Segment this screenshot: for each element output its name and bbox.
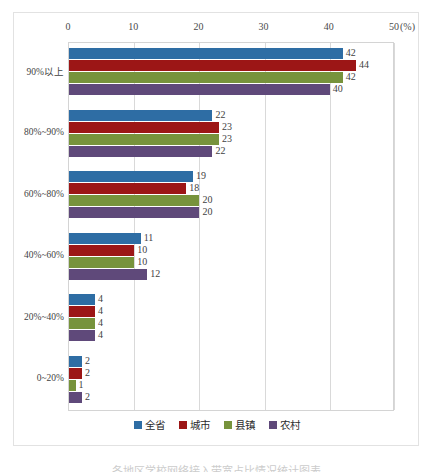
bar-全省-90%以上[interactable]: [69, 48, 343, 59]
bar-value-label: 2: [82, 367, 90, 378]
legend-item-农村[interactable]: 农村: [269, 417, 300, 432]
x-axis-tick-0: 0: [66, 21, 71, 32]
y-axis-label-2: 60%~80%: [14, 189, 64, 199]
bar-group-4: 4444: [69, 294, 393, 342]
bar-value-label: 4: [95, 293, 103, 304]
x-axis-tick-20: 20: [193, 21, 203, 32]
bar-城市-60%~80%[interactable]: [69, 183, 186, 194]
bar-group-0: 42444240: [69, 48, 393, 96]
bar-城市-20%~40%[interactable]: [69, 306, 95, 317]
x-axis-tick-50: 50: [389, 21, 399, 32]
bar-value-label: 22: [212, 109, 225, 120]
plot-area: 4244424022232322191820201110101244442212: [68, 42, 394, 411]
gridline-50: [394, 43, 395, 410]
bar-row: 44: [69, 60, 393, 71]
bar-value-label: 40: [330, 83, 343, 94]
bar-农村-80%~90%[interactable]: [69, 146, 212, 157]
bar-县镇-90%以上[interactable]: [69, 72, 343, 83]
bar-value-label: 18: [186, 182, 199, 193]
bar-value-label: 4: [95, 305, 103, 316]
bar-农村-0~20%[interactable]: [69, 392, 82, 403]
bar-县镇-20%~40%[interactable]: [69, 318, 95, 329]
y-axis-label-0: 90%以上: [14, 64, 64, 78]
bar-城市-90%以上[interactable]: [69, 60, 356, 71]
bar-row: 12: [69, 269, 393, 280]
bar-县镇-60%~80%[interactable]: [69, 195, 199, 206]
bar-value-label: 12: [147, 268, 160, 279]
bar-value-label: 4: [95, 329, 103, 340]
figure-caption: 各地区学校网络接入带宽占比情况统计图表: [0, 462, 432, 472]
bar-全省-40%~60%[interactable]: [69, 233, 141, 244]
bar-value-label: 20: [199, 206, 212, 217]
x-axis-tick-30: 30: [259, 21, 269, 32]
bar-value-label: 11: [141, 232, 154, 243]
bar-row: 2: [69, 368, 393, 379]
legend-item-全省[interactable]: 全省: [134, 417, 165, 432]
chart-legend: 全省城市县镇农村: [14, 417, 420, 432]
y-axis-label-3: 40%~60%: [14, 250, 64, 260]
bar-value-label: 10: [134, 244, 147, 255]
bar-县镇-40%~60%[interactable]: [69, 257, 134, 268]
x-axis-tick-10: 10: [128, 21, 138, 32]
legend-item-城市[interactable]: 城市: [179, 417, 210, 432]
bar-row: 20: [69, 207, 393, 218]
x-axis-tick-40: 40: [324, 21, 334, 32]
bar-农村-60%~80%[interactable]: [69, 207, 199, 218]
bar-value-label: 23: [219, 133, 232, 144]
bar-row: 10: [69, 245, 393, 256]
bar-row: 1: [69, 380, 393, 391]
bar-row: 2: [69, 392, 393, 403]
legend-label: 农村: [280, 417, 300, 432]
x-axis-tick-labels: 01020304050(%): [14, 13, 420, 41]
bar-value-label: 42: [343, 47, 356, 58]
legend-swatch-icon: [269, 421, 277, 429]
bar-value-label: 10: [134, 256, 147, 267]
y-axis-label-5: 0~20%: [14, 373, 64, 383]
bar-row: 42: [69, 72, 393, 83]
y-axis-label-4: 20%~40%: [14, 312, 64, 322]
x-axis-unit-label: (%): [400, 21, 415, 32]
bar-row: 10: [69, 257, 393, 268]
bar-row: 42: [69, 48, 393, 59]
legend-swatch-icon: [224, 421, 232, 429]
bar-全省-80%~90%[interactable]: [69, 110, 212, 121]
bar-row: 4: [69, 318, 393, 329]
bar-row: 4: [69, 330, 393, 341]
bar-row: 2: [69, 356, 393, 367]
bar-农村-40%~60%[interactable]: [69, 269, 147, 280]
bar-value-label: 2: [82, 391, 90, 402]
legend-item-县镇[interactable]: 县镇: [224, 417, 255, 432]
legend-label: 县镇: [235, 417, 255, 432]
bar-全省-60%~80%[interactable]: [69, 171, 193, 182]
bar-value-label: 23: [219, 121, 232, 132]
bar-value-label: 2: [82, 355, 90, 366]
bar-全省-20%~40%[interactable]: [69, 294, 95, 305]
bar-城市-0~20%[interactable]: [69, 368, 82, 379]
bar-全省-0~20%[interactable]: [69, 356, 82, 367]
bar-group-2: 19182020: [69, 171, 393, 219]
bar-value-label: 1: [76, 379, 84, 390]
bar-value-label: 44: [356, 59, 369, 70]
bar-row: 23: [69, 134, 393, 145]
bar-value-label: 4: [95, 317, 103, 328]
bar-row: 23: [69, 122, 393, 133]
legend-label: 全省: [145, 417, 165, 432]
bar-城市-40%~60%[interactable]: [69, 245, 134, 256]
bar-row: 22: [69, 146, 393, 157]
y-axis-label-1: 80%~90%: [14, 127, 64, 137]
bar-value-label: 22: [212, 145, 225, 156]
bar-group-1: 22232322: [69, 110, 393, 158]
bar-value-label: 19: [193, 170, 206, 181]
bar-农村-90%以上[interactable]: [69, 84, 330, 95]
bar-group-5: 2212: [69, 356, 393, 404]
bar-县镇-80%~90%[interactable]: [69, 134, 219, 145]
bar-row: 19: [69, 171, 393, 182]
bar-row: 4: [69, 294, 393, 305]
bar-城市-80%~90%[interactable]: [69, 122, 219, 133]
bar-农村-20%~40%[interactable]: [69, 330, 95, 341]
bar-row: 11: [69, 233, 393, 244]
bar-row: 22: [69, 110, 393, 121]
legend-swatch-icon: [134, 421, 142, 429]
legend-swatch-icon: [179, 421, 187, 429]
chart-frame: 01020304050(%) 4244424022232322191820201…: [13, 12, 419, 446]
